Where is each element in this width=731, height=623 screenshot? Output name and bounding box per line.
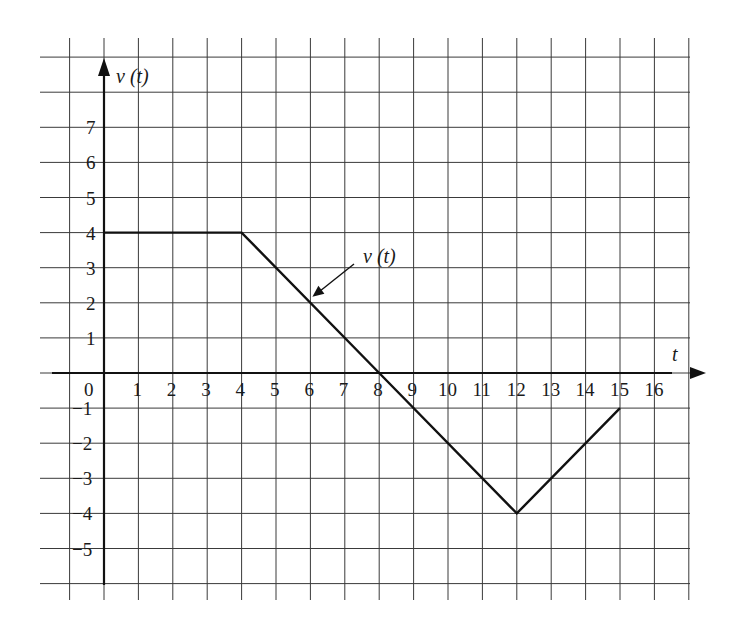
velocity-time-graph: v (t)t 0123456789101112131415167654321−1… bbox=[0, 0, 731, 623]
y-tick-label: 6 bbox=[86, 152, 96, 173]
annotation-label: v (t) bbox=[363, 245, 396, 268]
x-tick-label: 14 bbox=[576, 379, 596, 400]
y-tick-label: −3 bbox=[72, 468, 92, 489]
x-tick-label: 6 bbox=[304, 379, 314, 400]
x-tick-label: 2 bbox=[167, 379, 177, 400]
x-tick-label: 9 bbox=[408, 379, 418, 400]
y-tick-label: 1 bbox=[86, 328, 96, 349]
y-tick-label: 5 bbox=[86, 188, 96, 209]
y-tick-label: 4 bbox=[86, 223, 96, 244]
y-tick-label: −5 bbox=[72, 539, 92, 560]
y-axis-arrow-icon bbox=[98, 58, 110, 76]
y-tick-label: −2 bbox=[72, 433, 92, 454]
x-tick-label: 15 bbox=[610, 379, 629, 400]
x-tick-label: 10 bbox=[438, 379, 457, 400]
x-tick-label: 1 bbox=[132, 379, 142, 400]
annotations: v (t) bbox=[312, 245, 396, 297]
x-tick-label: 16 bbox=[644, 379, 663, 400]
grid bbox=[40, 38, 690, 600]
annotation-arrow-icon bbox=[312, 286, 324, 297]
y-tick-label: 3 bbox=[86, 258, 96, 279]
tick-labels: 0123456789101112131415167654321−1−2−3−4−… bbox=[72, 117, 663, 559]
x-axis-title: t bbox=[672, 343, 678, 365]
x-tick-label: 12 bbox=[507, 379, 526, 400]
x-tick-label: 0 bbox=[84, 379, 94, 400]
x-tick-label: 3 bbox=[201, 379, 211, 400]
x-tick-label: 4 bbox=[236, 379, 246, 400]
y-tick-label: 7 bbox=[86, 117, 96, 138]
y-axis-title: v (t) bbox=[116, 65, 149, 88]
x-tick-label: 13 bbox=[541, 379, 560, 400]
x-tick-label: 8 bbox=[373, 379, 383, 400]
y-tick-label: −1 bbox=[72, 398, 92, 419]
x-tick-label: 11 bbox=[472, 379, 490, 400]
x-tick-label: 5 bbox=[270, 379, 280, 400]
x-tick-label: 7 bbox=[339, 379, 349, 400]
x-axis-arrow-icon bbox=[690, 367, 706, 379]
y-tick-label: −4 bbox=[72, 503, 93, 524]
y-tick-label: 2 bbox=[86, 293, 96, 314]
